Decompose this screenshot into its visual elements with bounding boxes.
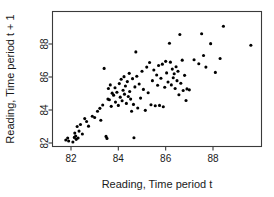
data-point (77, 137, 80, 140)
data-point (107, 87, 110, 90)
data-point (140, 70, 143, 73)
data-point (66, 137, 69, 140)
data-point (175, 65, 178, 68)
data-point (148, 61, 151, 64)
data-point (249, 44, 252, 47)
data-point (132, 103, 135, 106)
data-point (172, 76, 175, 79)
data-point (197, 62, 200, 65)
data-point (175, 79, 178, 82)
data-point (96, 110, 99, 113)
data-point (151, 79, 154, 82)
data-point (109, 83, 112, 86)
data-point (117, 104, 120, 107)
data-point (184, 99, 187, 102)
data-point (67, 139, 70, 142)
data-point (113, 86, 116, 89)
data-point (110, 105, 113, 108)
data-point (178, 33, 181, 36)
data-point (171, 68, 174, 71)
data-point (159, 77, 162, 80)
data-point (158, 104, 161, 107)
data-point (114, 101, 117, 104)
data-point (73, 132, 76, 135)
data-point (168, 42, 171, 45)
data-point (169, 61, 172, 64)
x-axis-ticks (71, 147, 213, 151)
data-point (121, 99, 124, 102)
data-point (165, 71, 168, 74)
data-point (105, 137, 108, 140)
data-point (188, 88, 191, 91)
data-point (144, 109, 147, 112)
data-point (157, 64, 160, 67)
data-point (134, 50, 137, 53)
data-point (179, 82, 182, 85)
data-point (131, 77, 134, 80)
data-point (136, 106, 139, 109)
data-point (99, 119, 102, 122)
data-point (161, 63, 164, 66)
data-point (128, 72, 131, 75)
data-point (112, 94, 115, 97)
data-point (222, 25, 225, 28)
data-point (77, 130, 80, 133)
scatter-plot-figure: 82848688 82848688 Reading, Time period t… (0, 0, 274, 197)
data-point (126, 80, 129, 83)
y-tick-label: 84 (39, 104, 50, 116)
data-point (74, 135, 77, 138)
data-point (120, 78, 123, 81)
data-point (182, 89, 185, 92)
data-point (176, 70, 179, 73)
data-point (202, 54, 205, 57)
x-tick-label: 88 (207, 153, 219, 164)
data-point (177, 93, 180, 96)
data-point (147, 91, 150, 94)
data-point (154, 104, 157, 107)
data-point (193, 58, 196, 61)
data-point (122, 75, 125, 78)
data-point (132, 136, 135, 139)
data-point (145, 66, 148, 69)
data-point (123, 93, 126, 96)
data-point (181, 59, 184, 62)
data-point (81, 132, 84, 135)
data-point (138, 82, 141, 85)
data-point (122, 89, 125, 92)
y-tick-label: 88 (39, 38, 50, 50)
data-point (142, 88, 145, 91)
x-tick-label: 84 (113, 153, 125, 164)
x-axis-tick-labels: 82848688 (65, 153, 219, 164)
data-point (174, 87, 177, 90)
data-point (183, 74, 186, 77)
data-point (125, 102, 128, 105)
data-point (98, 107, 101, 110)
data-point (135, 75, 138, 78)
data-point (214, 71, 217, 74)
data-point (155, 73, 158, 76)
x-tick-label: 86 (160, 153, 172, 164)
plot-frame (53, 12, 262, 147)
data-point (152, 69, 155, 72)
data-point (108, 98, 111, 101)
data-point (128, 90, 131, 93)
data-point (162, 105, 165, 108)
data-point (170, 83, 173, 86)
data-point (166, 80, 169, 83)
data-point (124, 85, 127, 88)
x-tick-label: 82 (65, 153, 77, 164)
y-tick-label: 82 (39, 137, 50, 149)
data-point (115, 91, 118, 94)
y-axis-title: Reading, Time period t + 1 (4, 14, 16, 143)
data-point (127, 95, 130, 98)
x-axis-title: Reading, Time period t (102, 178, 213, 190)
data-point (93, 116, 96, 119)
data-point (163, 86, 166, 89)
data-points-group (64, 25, 252, 144)
data-point (103, 67, 106, 70)
data-point (173, 72, 176, 75)
data-point (118, 82, 121, 85)
data-point (209, 42, 212, 45)
data-point (149, 103, 152, 106)
data-point (83, 117, 86, 120)
